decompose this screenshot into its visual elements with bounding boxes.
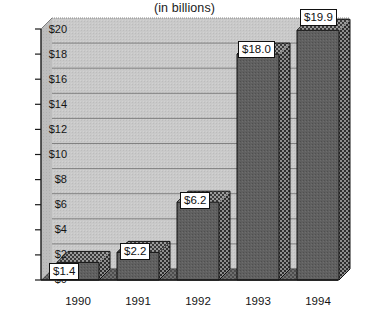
y-tick-label-14: $14 (33, 99, 67, 110)
value-label-1990: $1.4 (49, 263, 79, 280)
y-tick-label-6: $6 (33, 199, 67, 210)
y-tick-label-4: $4 (33, 224, 67, 235)
y-tick-label-8: $8 (33, 174, 67, 185)
value-label-1993: $18.0 (238, 41, 275, 58)
value-label-1994: $19.9 (300, 9, 337, 26)
y-tick-label-2: $2 (33, 249, 67, 260)
bar-1993[interactable] (237, 43, 290, 280)
y-tick-label-16: $16 (33, 74, 67, 85)
bar-1994[interactable] (297, 19, 350, 280)
x-tick-label-1993: 1993 (228, 295, 288, 307)
y-tick-label-20: $20 (33, 24, 67, 35)
y-tick-label-18: $18 (33, 49, 67, 60)
value-label-1991: $2.2 (120, 243, 150, 260)
value-label-1992: $6.2 (180, 192, 210, 209)
x-tick-label-1994: 1994 (288, 295, 348, 307)
chart-page: (in billions) (0, 0, 369, 318)
y-tick-label-12: $12 (33, 124, 67, 135)
x-tick-label-1991: 1991 (108, 295, 168, 307)
x-tick-label-1992: 1992 (168, 295, 228, 307)
x-tick-label-1990: 1990 (48, 295, 108, 307)
y-tick-label-10: $10 (33, 149, 67, 160)
